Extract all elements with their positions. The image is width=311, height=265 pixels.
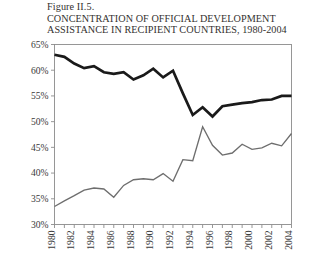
y-tick-label: 35% — [31, 193, 49, 204]
y-tick-label: 55% — [31, 90, 49, 101]
y-axis-tick-labels: 65%60%55%50%45%40%35%30% — [31, 39, 49, 230]
x-tick-label: 1980 — [46, 230, 57, 249]
plot-area: 65%60%55%50%45%40%35%30% 198019821984198… — [0, 0, 311, 265]
y-tick-label: 40% — [31, 167, 49, 178]
chart-series — [55, 55, 292, 207]
x-tick-label: 1994 — [184, 230, 195, 249]
figure-root: Figure II.5. CONCENTRATION OF OFFICIAL D… — [0, 0, 311, 265]
y-tick-label: 45% — [31, 142, 49, 153]
x-tick-label: 1998 — [223, 230, 234, 249]
x-tick-label: 1982 — [65, 230, 76, 249]
x-tick-label: 1996 — [204, 230, 215, 249]
x-tick-label: 1988 — [125, 230, 136, 249]
x-axis-tick-labels: 1980198219841986198819901992199419961998… — [46, 230, 294, 249]
y-tick-label: 50% — [31, 116, 49, 127]
y-tick-label: 60% — [31, 65, 49, 76]
x-tick-label: 1986 — [105, 230, 116, 249]
y-tick-label: 65% — [31, 39, 49, 50]
x-tick-label: 1984 — [85, 230, 96, 249]
y-tick-label: 30% — [31, 219, 49, 230]
x-tick-label: 1990 — [144, 230, 155, 249]
x-tick-label: 2002 — [263, 230, 274, 249]
x-tick-label: 2004 — [283, 230, 294, 249]
x-tick-label: 1992 — [164, 230, 175, 249]
x-tick-label: 2000 — [243, 230, 254, 249]
series-line-2 — [55, 127, 292, 207]
series-line-1 — [55, 55, 292, 117]
line-chart: 65%60%55%50%45%40%35%30% 198019821984198… — [0, 0, 311, 265]
